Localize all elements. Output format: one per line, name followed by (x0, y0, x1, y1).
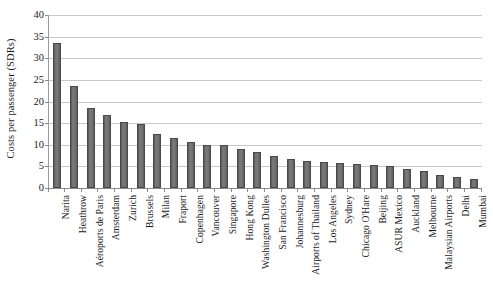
bar-slot (49, 15, 66, 188)
x-axis-label-slot: Milan (148, 193, 165, 306)
x-axis-label-slot: Johannesburg (281, 193, 298, 306)
x-axis-label-slot: Brussels (131, 193, 148, 306)
x-axis-tick-mark (131, 188, 132, 192)
bar-slot (382, 15, 399, 188)
bar-slot (399, 15, 416, 188)
x-axis-label-slot: Sydney (331, 193, 348, 306)
bar[interactable] (370, 165, 378, 188)
x-axis-tick-mark (48, 188, 49, 192)
bar-slot (166, 15, 183, 188)
x-axis-tick-mark (414, 188, 415, 192)
bar-slot (465, 15, 482, 188)
x-axis-label-slot: Fraport (165, 193, 182, 306)
x-axis-label-slot: Malaysian Airports (431, 193, 448, 306)
bar[interactable] (287, 159, 295, 188)
bar[interactable] (137, 124, 145, 188)
x-axis-label-slot: Singapore (215, 193, 232, 306)
x-axis-label-slot: Vancouver (198, 193, 215, 306)
x-axis-label-slot: Narita (48, 193, 65, 306)
x-axis-tick-mark (347, 188, 348, 192)
x-axis-tick-mark (381, 188, 382, 192)
x-axis-tick-mark (164, 188, 165, 192)
x-axis-label-slot: Melbourne (414, 193, 431, 306)
bar-slot (299, 15, 316, 188)
bar[interactable] (203, 145, 211, 188)
bar-slot (349, 15, 366, 188)
bar-slot (132, 15, 149, 188)
x-axis-category-labels: NaritaHeathrowAéroports de ParisAmsterda… (48, 193, 481, 306)
bar-slot (249, 15, 266, 188)
bar[interactable] (436, 175, 444, 188)
bar-slot (216, 15, 233, 188)
plot-area (48, 15, 482, 188)
x-axis-label-slot: Copenhagen (181, 193, 198, 306)
x-axis-tick-mark (431, 188, 432, 192)
bar-slot (82, 15, 99, 188)
x-axis-tick-mark (97, 188, 98, 192)
x-axis-label-slot: Amsterdam (98, 193, 115, 306)
bar[interactable] (253, 152, 261, 188)
x-axis-label-slot: Chicago O'Hare (348, 193, 365, 306)
y-axis-tick-label: 30 (34, 53, 45, 63)
y-axis-tick-label: 35 (34, 32, 45, 42)
y-axis-tick-label: 10 (34, 140, 45, 150)
bar-slot (365, 15, 382, 188)
bar-slot (415, 15, 432, 188)
bar-slot (232, 15, 249, 188)
x-axis-tick-mark (214, 188, 215, 192)
x-axis-category-label: Mumbai (478, 195, 488, 228)
bar[interactable] (87, 108, 95, 188)
x-axis-tick-mark (297, 188, 298, 192)
y-axis-title: Costs per passenger (SDRs) (0, 0, 20, 196)
bar-slot (99, 15, 116, 188)
bar[interactable] (120, 122, 128, 188)
bar[interactable] (220, 145, 228, 188)
bar-slot (116, 15, 133, 188)
x-axis-tick-mark (231, 188, 232, 192)
bar[interactable] (53, 43, 61, 188)
x-axis-tick-mark (81, 188, 82, 192)
bar[interactable] (70, 86, 78, 188)
bar[interactable] (103, 115, 111, 188)
x-axis-tick-mark (397, 188, 398, 192)
bar[interactable] (320, 162, 328, 188)
y-axis-tick-label: 5 (39, 161, 44, 171)
y-axis-tick-label: 25 (34, 75, 45, 85)
bar-slot (316, 15, 333, 188)
x-axis-tick-mark (314, 188, 315, 192)
bar[interactable] (336, 163, 344, 188)
bar-chart: Costs per passenger (SDRs) 0510152025303… (0, 0, 493, 306)
bar-slot (449, 15, 466, 188)
x-axis-tick-mark (281, 188, 282, 192)
x-axis-tick-mark (147, 188, 148, 192)
bar-slot (199, 15, 216, 188)
bar[interactable] (153, 134, 161, 188)
x-axis-label-slot: Delhi (448, 193, 465, 306)
bar[interactable] (470, 179, 478, 188)
x-axis-label-slot: Hong Kong (231, 193, 248, 306)
y-axis-tick-label: 40 (34, 10, 45, 20)
bar-slot (282, 15, 299, 188)
bar[interactable] (353, 164, 361, 188)
x-axis-label-slot: Beijing (364, 193, 381, 306)
y-axis-tick-label: 0 (39, 183, 44, 193)
x-axis-tick-mark (64, 188, 65, 192)
bar[interactable] (453, 177, 461, 188)
bar[interactable] (270, 156, 278, 188)
bar[interactable] (403, 169, 411, 188)
x-axis-label-slot: Washington Dulles (248, 193, 265, 306)
x-axis-label-slot: Auckland (398, 193, 415, 306)
bar[interactable] (237, 149, 245, 188)
bar[interactable] (303, 161, 311, 188)
x-axis-label-slot: ASUR Mexico (381, 193, 398, 306)
bar[interactable] (187, 142, 195, 188)
x-axis-label-slot: Zurich (115, 193, 132, 306)
bar[interactable] (386, 166, 394, 188)
y-axis-tick-label: 20 (34, 97, 45, 107)
bar-slot (66, 15, 83, 188)
bar[interactable] (420, 171, 428, 188)
x-axis-label-slot: San Francisco (265, 193, 282, 306)
x-axis-tick-mark (114, 188, 115, 192)
x-axis-tick-mark (197, 188, 198, 192)
bar[interactable] (170, 138, 178, 188)
